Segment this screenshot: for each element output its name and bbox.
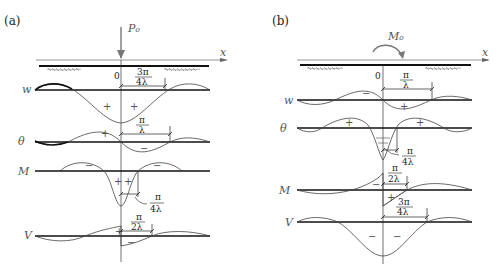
- svg-text:+: +: [114, 176, 122, 187]
- origin-label: 0: [375, 71, 381, 81]
- svg-text:−: −: [362, 88, 370, 99]
- label-M: M: [17, 165, 30, 178]
- svg-text:+: +: [130, 101, 138, 112]
- svg-text:4λ: 4λ: [397, 207, 409, 217]
- arrow-head-icon: [398, 51, 405, 59]
- moment-arrow-icon: [373, 45, 402, 55]
- svg-text:π: π: [139, 115, 145, 125]
- panel-b-label: (b): [272, 14, 289, 28]
- svg-text:−: −: [372, 179, 380, 190]
- diagram-V-a: V + − π 2λ: [24, 212, 210, 248]
- svg-text:π: π: [407, 146, 413, 156]
- label-w: w: [284, 94, 294, 107]
- svg-text:−: −: [153, 160, 161, 171]
- svg-text:+: +: [387, 192, 395, 203]
- svg-text:λ: λ: [139, 125, 145, 135]
- ground-hatch-left: [47, 68, 81, 71]
- x-axis-label: x: [220, 46, 227, 59]
- panel-b: (b) M₀ x 0 w − +: [272, 14, 490, 264]
- svg-text:−: −: [85, 160, 93, 171]
- svg-text:π: π: [136, 212, 142, 222]
- svg-text:2λ: 2λ: [131, 222, 143, 232]
- svg-text:4λ: 4λ: [402, 157, 414, 167]
- svg-text:π: π: [403, 70, 409, 80]
- label-w: w: [22, 83, 32, 96]
- svg-text:−: −: [127, 237, 135, 248]
- label-V: V: [24, 229, 33, 242]
- origin-label: 0: [114, 71, 120, 81]
- svg-text:4λ: 4λ: [150, 204, 162, 214]
- svg-text:4λ: 4λ: [136, 77, 148, 87]
- svg-text:−: −: [368, 231, 376, 242]
- label-M: M: [278, 184, 291, 197]
- svg-text:λ: λ: [403, 80, 409, 90]
- svg-text:+: +: [345, 117, 353, 128]
- svg-text:3π: 3π: [137, 67, 149, 77]
- beam-on-elastic-foundation-figure: (a) P₀ x 0 w + +: [0, 0, 504, 275]
- svg-text:+: +: [416, 117, 424, 128]
- ground-hatch-right: [164, 68, 200, 71]
- svg-text:−: −: [140, 143, 148, 154]
- load-label: M₀: [387, 30, 404, 43]
- load-label: P₀: [127, 22, 140, 35]
- svg-text:+: +: [115, 226, 123, 237]
- svg-text:+: +: [101, 128, 109, 139]
- svg-text:π: π: [392, 163, 398, 173]
- label-theta: θ: [280, 122, 287, 135]
- ground-hatch-right: [425, 67, 461, 70]
- label-V: V: [285, 216, 294, 229]
- x-axis-label: x: [482, 46, 489, 59]
- svg-text:+: +: [124, 176, 132, 187]
- svg-text:2λ: 2λ: [388, 174, 400, 184]
- label-theta: θ: [18, 135, 25, 148]
- svg-text:+: +: [400, 101, 408, 112]
- diagram-M-b: M − + π 2λ: [278, 163, 472, 206]
- svg-text:π: π: [155, 192, 161, 202]
- svg-text:−: −: [393, 231, 401, 242]
- arrow-head-icon: [117, 50, 125, 59]
- panel-a: (a) P₀ x 0 w + +: [4, 14, 228, 262]
- diagram-theta-b: θ + + π 4λ: [280, 117, 472, 167]
- diagram-V-b: V − − 3π 4λ: [285, 190, 472, 256]
- diagram-M-a: M − + + − π 4λ: [17, 160, 210, 214]
- ground-hatch-left: [307, 67, 343, 70]
- svg-text:3π: 3π: [398, 197, 410, 207]
- panel-a-label: (a): [4, 14, 21, 28]
- svg-text:+: +: [103, 101, 111, 112]
